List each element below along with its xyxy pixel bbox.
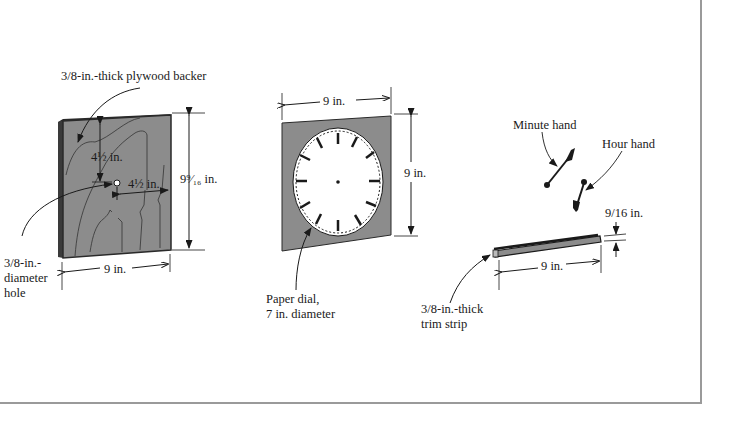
hole-label-line2: diameter [4,271,48,285]
trim-label-line1: 3/8-in.-thick [421,302,483,316]
dial-panel-width-label: 9 in. [323,94,345,108]
backer-horizontal-offset-label: 4½ in. [128,177,160,191]
backer-vertical-offset-label: 4½ in. [91,150,123,164]
minute-hand-label: Minute hand [513,118,577,132]
dial-panel [282,87,418,290]
hole-label-line1: 3/8-in.- [4,256,41,270]
plywood-backer [22,88,205,290]
hole-label-line3: hole [4,286,26,300]
trim-length-label: 9 in. [541,259,563,273]
hour-hand-label: Hour hand [602,137,655,151]
trim-thickness-label: 9/16 in. [605,206,643,220]
dial-label-line1: Paper dial, [266,292,319,306]
dial-panel-height-label: 9 in. [404,166,426,180]
backer-width-label: 9 in. [104,262,126,276]
dial-label-line2: 7 in. diameter [266,307,335,321]
trim-strip [450,222,626,303]
trim-label-line2: trim strip [421,317,467,331]
backer-height-label: 9⁹⁄₁₆ in. [180,172,217,186]
backer-title-label: 3/8-in.-thick plywood backer [61,69,206,83]
